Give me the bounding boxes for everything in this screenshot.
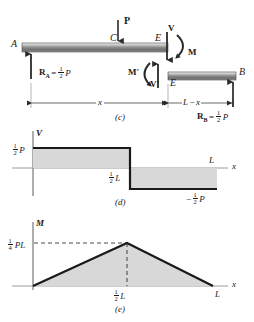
dimension-label-l-minus-x: L − x xyxy=(182,98,201,107)
moment-midspan-label: 1 2 L xyxy=(113,289,125,304)
shear-bottom-unit: P xyxy=(199,195,205,204)
point-label-e-lower: E xyxy=(170,78,176,88)
moment-peak-unit: PL xyxy=(15,241,26,250)
point-label-b: B xyxy=(239,67,245,77)
shear-mid-unit: L xyxy=(115,174,120,183)
moment-mid-unit: L xyxy=(120,292,125,301)
shear-mid-fraction: 1 2 xyxy=(109,171,114,186)
shear-mid-denominator: 2 xyxy=(109,177,114,185)
shear-fill-positive xyxy=(33,148,130,168)
ra-subscript: A xyxy=(46,73,50,79)
shear-bottom-sign: − xyxy=(186,195,191,204)
shear-top-numerator: 1 xyxy=(13,143,18,150)
caption-d: (d) xyxy=(115,198,126,207)
ra-equals: = xyxy=(51,69,56,78)
figure-canvas xyxy=(0,0,254,322)
shear-top-fraction: 1 2 xyxy=(13,143,18,158)
dim-minus: − xyxy=(190,98,195,107)
load-label-p: P xyxy=(124,16,130,26)
moment-mid-fraction: 1 2 xyxy=(114,289,119,304)
moment-peak-fraction: 1 4 xyxy=(8,238,13,253)
shear-bottom-denominator: 2 xyxy=(193,198,198,206)
moment-label-mprime: M' xyxy=(128,68,139,77)
rb-denominator: 2 xyxy=(216,116,221,124)
shear-midspan-label: 1 2 L xyxy=(108,171,120,186)
shear-fill-negative xyxy=(130,168,217,189)
point-label-c: C xyxy=(110,33,117,43)
dim-l: L xyxy=(183,98,188,107)
shear-top-unit: P xyxy=(19,146,25,155)
rb-subscript: B xyxy=(204,117,208,123)
shear-label-vprime: V' xyxy=(150,80,159,89)
shear-mid-numerator: 1 xyxy=(109,171,114,178)
moment-fill xyxy=(33,243,213,286)
shear-value-top: 1 2 P xyxy=(12,143,25,158)
reaction-label-ra: RA = 1 2 P xyxy=(39,66,71,81)
shear-bottom-numerator: 1 xyxy=(193,192,198,199)
ra-fraction: 1 2 xyxy=(58,66,63,81)
beam-segment-eb xyxy=(168,72,236,80)
beam-segment-ae xyxy=(22,43,168,52)
dimension-label-x: x xyxy=(96,98,104,107)
moment-peak-label: 1 4 PL xyxy=(7,238,25,253)
moment-mid-denominator: 2 xyxy=(114,295,119,303)
moment-end-label-l: L xyxy=(215,290,220,299)
moment-peak-numerator: 1 xyxy=(8,238,13,245)
moment-label-m: M xyxy=(188,48,197,57)
ra-numerator: 1 xyxy=(58,66,63,73)
shear-end-label-l: L xyxy=(209,156,214,165)
shear-axis-label-x: x xyxy=(232,162,236,171)
rb-numerator: 1 xyxy=(216,110,221,117)
caption-e: (e) xyxy=(115,305,125,314)
rb-equals: = xyxy=(209,113,214,122)
shear-label-v: V xyxy=(168,24,175,33)
moment-peak-denominator: 4 xyxy=(8,244,13,252)
point-label-e-upper: E xyxy=(155,33,161,43)
internal-moment-m xyxy=(177,35,183,57)
moment-mid-numerator: 1 xyxy=(114,289,119,296)
moment-axis-label-m: M xyxy=(36,219,44,228)
rb-unit: P xyxy=(223,113,229,122)
caption-c: (c) xyxy=(115,113,125,122)
rb-fraction: 1 2 xyxy=(216,110,221,125)
ra-denominator: 2 xyxy=(58,72,63,80)
beam-shear-moment-figure: A C E E B P V M V' M' RA = 1 2 P RB = 1 … xyxy=(0,0,254,322)
shear-top-denominator: 2 xyxy=(13,149,18,157)
ra-unit: P xyxy=(65,69,71,78)
point-label-a: A xyxy=(11,39,17,49)
dim-x: x xyxy=(196,98,200,107)
shear-bottom-fraction: 1 2 xyxy=(193,192,198,207)
shear-value-bottom: − 1 2 P xyxy=(186,192,205,207)
shear-axis-label-v: V xyxy=(36,129,42,138)
moment-axis-label-x: x xyxy=(232,280,236,289)
dimension-extension-lines xyxy=(31,83,233,108)
reaction-label-rb: RB = 1 2 P xyxy=(197,110,228,125)
